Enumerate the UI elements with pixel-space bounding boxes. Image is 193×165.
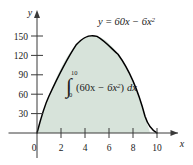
y-tick-label-90: 90 xyxy=(19,70,29,80)
y-tick-label-30: 30 xyxy=(19,109,29,119)
x-tick-label-8: 8 xyxy=(131,143,136,153)
y-tick-label-120: 120 xyxy=(14,51,29,61)
y-axis-tick-labels: 150 120 90 60 30 xyxy=(14,32,29,120)
integrand-differential: dx xyxy=(127,82,137,93)
integrand-minus: − xyxy=(98,82,104,93)
svg-text:(60x−6x2)dx: (60x−6x2)dx xyxy=(76,82,137,95)
x-tick-label-4: 4 xyxy=(83,143,88,153)
y-axis-arrowhead xyxy=(34,10,40,18)
integrand-open-paren: (60x xyxy=(76,82,96,94)
x-tick-label-0: 0 xyxy=(32,143,37,153)
y-tick-label-150: 150 xyxy=(14,32,29,42)
integrand-close-paren: ) xyxy=(121,82,125,94)
curve-equation-label: y=60x−6x2 xyxy=(97,16,156,28)
x-axis-tick-labels: 0 2 4 6 8 10 xyxy=(32,143,162,153)
figure-container: 150 120 90 60 30 0 2 4 6 8 10 y x y=60x−… xyxy=(0,0,193,165)
equation-term1: 60x xyxy=(115,16,131,27)
equation-exponent: 2 xyxy=(152,16,156,24)
x-axis-name-label: x xyxy=(179,138,185,149)
integral-lower-limit: 0 xyxy=(69,91,72,98)
equation-y-var: y xyxy=(97,16,103,27)
y-tick-label-60: 60 xyxy=(19,90,29,100)
y-axis-name-label: y xyxy=(27,7,33,18)
x-axis-arrowhead xyxy=(171,130,179,136)
graph-canvas: 150 120 90 60 30 0 2 4 6 8 10 y x y=60x−… xyxy=(0,0,193,165)
integral-upper-limit: 10 xyxy=(71,69,78,76)
x-tick-label-10: 10 xyxy=(152,143,162,153)
equation-term2: 6x xyxy=(142,16,152,27)
equation-minus: − xyxy=(133,16,139,27)
integrand-term: 6x xyxy=(107,82,117,93)
x-tick-label-2: 2 xyxy=(59,143,64,153)
svg-text:y=60x−6x2: y=60x−6x2 xyxy=(97,16,156,28)
x-tick-label-6: 6 xyxy=(107,143,112,153)
equation-equals: = xyxy=(106,16,112,27)
